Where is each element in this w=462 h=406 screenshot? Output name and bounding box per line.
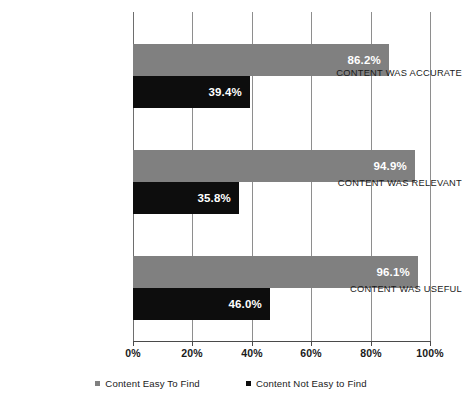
bar-relevant-not-easy: 35.8%: [133, 182, 239, 214]
bar-value-label: 86.2%: [347, 54, 381, 66]
xtick-label-20: 20%: [170, 347, 214, 359]
legend-item-easy[interactable]: Content Easy To Find: [95, 378, 200, 389]
legend-label-not-easy: Content Not Easy to Find: [256, 378, 367, 389]
legend-label-easy: Content Easy To Find: [105, 378, 200, 389]
tick-40: [252, 341, 253, 346]
tick-100: [430, 341, 431, 346]
chart-legend: Content Easy To Find Content Not Easy to…: [0, 378, 462, 389]
bar-accurate-not-easy: 39.4%: [133, 76, 250, 108]
legend-swatch-icon: [246, 381, 251, 386]
bar-value-label: 94.9%: [373, 160, 407, 172]
tick-80: [371, 341, 372, 346]
xtick-label-60: 60%: [289, 347, 333, 359]
xtick-label-100: 100%: [408, 347, 452, 359]
bar-useful-not-easy: 46.0%: [133, 288, 270, 320]
x-axis-line: [133, 341, 431, 342]
legend-item-not-easy[interactable]: Content Not Easy to Find: [246, 378, 367, 389]
xtick-label-80: 80%: [349, 347, 393, 359]
bar-value-label: 39.4%: [208, 86, 242, 98]
bar-value-label: 46.0%: [228, 298, 262, 310]
xtick-label-40: 40%: [230, 347, 274, 359]
tick-0: [133, 341, 134, 346]
category-label-relevant: CONTENT WAS RELEVANT: [336, 178, 462, 188]
category-label-accurate: CONTENT WAS ACCURATE: [336, 68, 462, 78]
category-label-useful: CONTENT WAS USEFUL: [336, 284, 462, 294]
legend-swatch-icon: [95, 381, 100, 386]
xtick-label-0: 0%: [111, 347, 155, 359]
tick-20: [192, 341, 193, 346]
bar-value-label: 96.1%: [376, 266, 410, 278]
horizontal-bar-chart: 86.2% 39.4% 94.9% 35.8% 96.1% 46.0% CONT…: [0, 0, 462, 406]
bar-value-label: 35.8%: [197, 192, 231, 204]
tick-60: [311, 341, 312, 346]
